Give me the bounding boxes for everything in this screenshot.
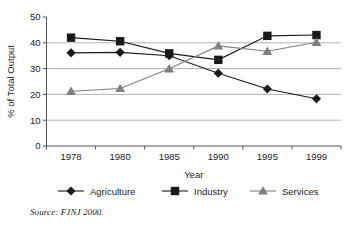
x-tick-label-1990: 1990 (208, 151, 229, 162)
y-tick-label-50: 50 (30, 11, 41, 22)
series-line-industry (71, 35, 316, 60)
data-point-agriculture-1995 (263, 84, 272, 93)
data-point-agriculture-1990 (214, 69, 223, 78)
legend-item-services[interactable]: Services (250, 186, 319, 197)
data-point-industry-1990 (214, 56, 222, 64)
y-axis-ticks: 01020304050 (30, 11, 47, 151)
x-axis-title: Year (184, 169, 203, 180)
x-axis-ticks: 197819801985199019951999 (47, 146, 342, 162)
source-text: FJNJ 2000. (61, 207, 104, 217)
data-point-agriculture-1999 (312, 94, 321, 103)
gridlines (47, 43, 342, 120)
legend-item-agriculture[interactable]: Agriculture (58, 186, 135, 197)
legend-label-services: Services (282, 186, 319, 197)
data-point-industry-1995 (263, 32, 271, 40)
x-tick-label-1999: 1999 (306, 151, 327, 162)
x-tick-label-1978: 1978 (60, 151, 81, 162)
data-point-industry-1985 (165, 49, 173, 57)
chart-legend: AgricultureIndustryServices (58, 186, 319, 197)
series-line-services (71, 42, 316, 91)
data-point-industry-1978 (67, 33, 75, 41)
legend-marker-agriculture (66, 186, 75, 195)
series-line-agriculture (71, 52, 316, 98)
y-tick-label-20: 20 (30, 89, 41, 100)
y-tick-label-40: 40 (30, 37, 41, 48)
y-tick-label-10: 10 (30, 115, 41, 126)
y-axis-title: % of Total Output (5, 45, 16, 118)
chart-figure: 01020304050197819801985199019951999Year%… (0, 0, 355, 232)
legend-label-agriculture: Agriculture (90, 186, 135, 197)
legend-marker-industry (171, 187, 179, 195)
data-point-industry-1980 (116, 37, 124, 45)
x-tick-label-1980: 1980 (110, 151, 131, 162)
legend-label-industry: Industry (194, 186, 228, 197)
source-note: Source: FJNJ 2000. (30, 207, 104, 217)
legend-item-industry[interactable]: Industry (162, 186, 228, 197)
x-tick-label-1995: 1995 (257, 151, 278, 162)
y-tick-label-0: 0 (35, 140, 40, 151)
axes (47, 17, 342, 146)
line-chart: 01020304050197819801985199019951999Year%… (0, 0, 355, 232)
series-services (66, 38, 321, 95)
x-tick-label-1985: 1985 (159, 151, 180, 162)
source-label: Source: (30, 207, 58, 217)
series-industry (67, 31, 321, 64)
legend-marker-services (258, 186, 268, 194)
data-point-agriculture-1980 (116, 48, 125, 57)
data-point-agriculture-1978 (66, 48, 75, 57)
y-tick-label-30: 30 (30, 63, 41, 74)
data-point-services-1980 (115, 84, 125, 92)
